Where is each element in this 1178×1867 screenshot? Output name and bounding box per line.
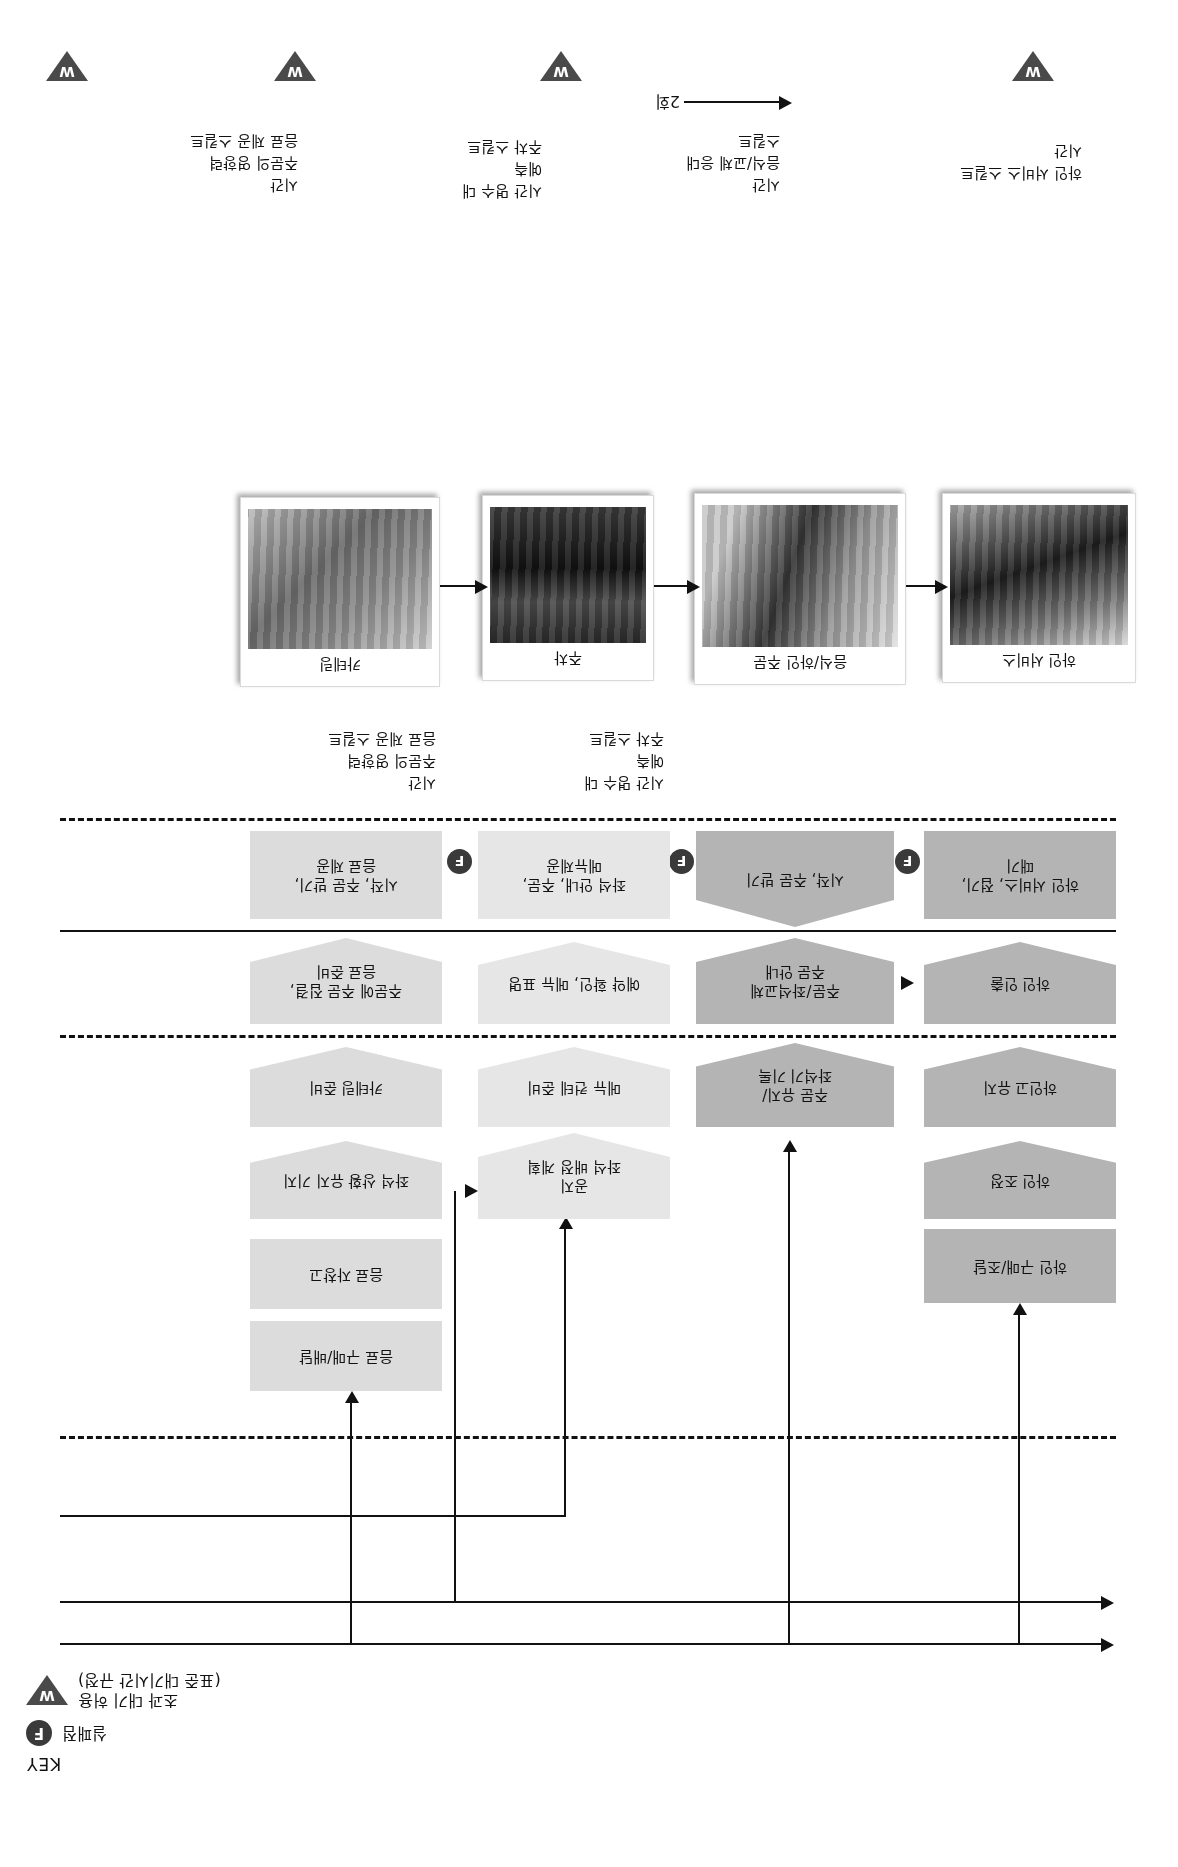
evidence-3-item-2: 음료 제공 스킬트 <box>18 130 298 152</box>
evidence-1-item-2: 음료 제공 스킬트 <box>186 728 436 750</box>
onstage-prep-drinks-line1: 주문에 주문 집결, <box>290 981 402 1001</box>
evidence-4-item-0: 시간 명수 대 <box>302 179 542 201</box>
cycle-count-label: 2회 <box>655 91 680 115</box>
fail-point-1: F <box>895 849 920 874</box>
support-seat-plan-line2: 공지 <box>527 1176 621 1196</box>
support-adjust-label: 하인 조정 <box>990 1170 1051 1190</box>
evidence-4-item-2: 주차 스킬트 <box>302 136 542 158</box>
photo-card-catering: 카테링 <box>240 497 440 687</box>
photo-flow-line-1 <box>440 585 478 587</box>
cycle-arrow <box>779 96 792 110</box>
action-take-order: 시작, 주문 받기 <box>696 831 894 927</box>
wait-badge-icon: W <box>26 1675 68 1705</box>
backstage-menu-prep-label: 메뉴 컨테 준비 <box>527 1077 621 1097</box>
support-seat-status-label: 좌석 상황 유지 기지 <box>283 1170 409 1190</box>
photo-flow-arrow-3 <box>935 580 948 594</box>
photo-flow-line-3 <box>906 585 938 587</box>
proc-drink-buy: 음료 구매/배달 <box>250 1321 442 1391</box>
evidence-1-item-1: 주문의 영향력 <box>186 750 436 772</box>
rail-drop-4 <box>350 1395 352 1645</box>
evidence-bullets-1: 시간 주문의 영향력 음료 제공 스킬트 <box>186 728 436 793</box>
onstage-serve-label: 하인 인출 <box>990 973 1051 993</box>
evidence-5-item-2: 스킬트 <box>550 130 780 152</box>
key-item-fail-point: 실패점 F <box>26 1720 326 1746</box>
photo-caption-food-order: 음식/하인 주문 <box>702 647 898 677</box>
photo-card-service: 하인 서비스 <box>942 493 1136 683</box>
photo-card-parking: 주차 <box>482 495 654 681</box>
photo-flow-arrow-2 <box>687 580 700 594</box>
backstage-catering-prep: 카테링 준비 <box>250 1047 442 1127</box>
evidence-5-item-1: 음식/교체 응대 <box>550 152 780 174</box>
onstage-confirm-menu-label: 예약 확인, 메뉴 표명 <box>508 973 639 993</box>
support-adjust: 하인 조정 <box>924 1141 1116 1219</box>
key-fail-point-label: 실패점 <box>62 1723 107 1743</box>
rail-drop-1-arrow <box>1013 1303 1027 1315</box>
photo-caption-catering: 카테링 <box>248 649 432 679</box>
action-seat-menu: 좌석 안내, 주문, 메뉴제공 <box>478 831 670 919</box>
action-order-drinks-line2: 음료 제공 <box>294 856 397 876</box>
evidence-3-item-0: 시간 <box>18 173 298 195</box>
backstage-menu-prep: 메뉴 컨테 준비 <box>478 1047 670 1127</box>
rail-drop-1 <box>1018 1307 1020 1645</box>
action-order-drinks: 시작, 주문 받기, 음료 제공 <box>250 831 442 919</box>
photo-image-service <box>950 505 1128 645</box>
action-take-order-label: 시작, 주문 받기 <box>746 869 844 889</box>
wait-marker-2: W <box>274 51 316 81</box>
action-seat-menu-line2: 메뉴제공 <box>522 856 625 876</box>
photo-card-food-order: 음식/하인 주문 <box>694 493 906 685</box>
action-service-wait-line2: 때기 <box>961 856 1078 876</box>
rail-drop-2-arrow <box>783 1140 797 1152</box>
proc-service-buy-label: 하인 구매/조달 <box>973 1256 1067 1276</box>
onstage-order-guide: 주문/좌석교체 주문 안내 <box>696 938 894 1024</box>
support-rail-second-arrow <box>1101 1596 1114 1610</box>
action-service-wait: 하인 서비스, 접기, 때기 <box>924 831 1116 919</box>
evidence-bullets-4: 시간 명수 대 예측 주차 스킬트 <box>302 136 542 201</box>
line-of-implementation <box>60 1436 1116 1439</box>
action-seat-menu-line1: 좌석 안내, 주문, <box>522 875 625 895</box>
onstage-order-guide-line1: 주문/좌석교체 <box>750 981 839 1001</box>
line-of-interaction <box>60 818 1116 821</box>
proc-service-buy: 하인 구매/조달 <box>924 1229 1116 1303</box>
key-wait-label: 초과 대기 허용 (표준 대기시간 규정) <box>78 1670 221 1710</box>
evidence-4-item-1: 예측 <box>302 158 542 180</box>
support-seat-plan-line1: 좌석 배정 계획 <box>527 1157 621 1177</box>
photo-caption-service: 하인 서비스 <box>950 645 1128 675</box>
support-rail-top-arrow <box>1101 1638 1114 1652</box>
action-service-wait-line1: 하인 서비스, 접기, <box>961 875 1078 895</box>
blueprint-canvas: KEY 실패점 F 초과 대기 허용 (표준 대기시간 규정) W 음료 구매/… <box>0 0 1178 1867</box>
onstage-prep-drinks: 주문에 주문 집결, 음료 준비 <box>250 938 442 1024</box>
onstage-prep-drinks-line2: 음료 준비 <box>290 962 402 982</box>
support-seat-plan: 공지 좌석 배정 계획 <box>478 1133 670 1219</box>
onstage-serve: 하인 인출 <box>924 942 1116 1024</box>
wait-marker-4: W <box>1012 51 1054 81</box>
proc-drink-store: 음료 자창고 <box>250 1239 442 1309</box>
rail-drop-2 <box>788 1145 790 1645</box>
evidence-3-item-1: 주문의 영향력 <box>18 152 298 174</box>
support-rail-top <box>60 1643 1102 1645</box>
evidence-bullets-3: 시간 주문의 영향력 음료 제공 스킬트 <box>18 130 298 195</box>
key-wait-label-line2: (표준 대기시간 규정) <box>78 1670 221 1690</box>
support-seat-status: 좌석 상황 유지 기지 <box>250 1141 442 1219</box>
proc-drink-buy-label: 음료 구매/배달 <box>299 1346 393 1366</box>
evidence-bullets-6: 하인 서비스 스킬트 시간 <box>822 140 1082 184</box>
backstage-record-line2: 좌석기 기록 <box>758 1066 833 1086</box>
evidence-bullets-2: 시간 명수 대 예측 주차 스킬트 <box>414 728 664 793</box>
photo-image-parking <box>490 507 646 643</box>
key-item-wait: 초과 대기 허용 (표준 대기시간 규정) W <box>26 1670 326 1710</box>
rail-drop-3 <box>564 1223 566 1517</box>
wait-marker-1: W <box>46 51 88 81</box>
onstage-order-guide-arrow <box>901 976 914 990</box>
support-rail-third <box>60 1515 566 1517</box>
action-order-drinks-line1: 시작, 주문 받기, <box>294 875 397 895</box>
rail-drop-5-arrow <box>465 1184 478 1198</box>
evidence-6-item-1: 시간 <box>822 140 1082 162</box>
evidence-2-item-2: 주차 스킬트 <box>414 728 664 750</box>
photo-caption-parking: 주차 <box>490 643 646 673</box>
backstage-hold-label: 하인고 유지 <box>983 1077 1058 1097</box>
onstage-confirm-menu: 예약 확인, 메뉴 표명 <box>478 942 670 1024</box>
key-wait-label-line1: 초과 대기 허용 <box>78 1690 221 1710</box>
evidence-2-item-0: 시간 명수 대 <box>414 771 664 793</box>
line-of-visibility <box>60 930 1116 932</box>
proc-drink-store-label: 음료 자창고 <box>309 1264 384 1284</box>
backstage-catering-prep-label: 카테링 준비 <box>309 1077 384 1097</box>
